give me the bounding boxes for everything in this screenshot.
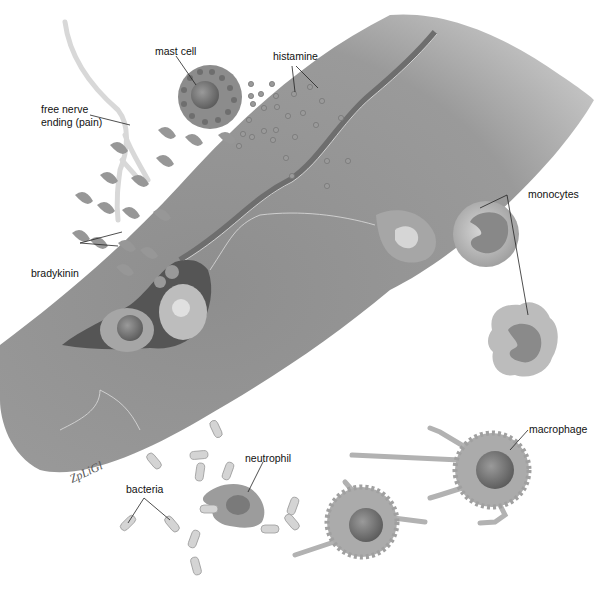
label-monocytes: monocytes — [528, 188, 579, 200]
label-bacteria: bacteria — [126, 483, 163, 495]
label-mast-cell: mast cell — [155, 45, 196, 57]
mast-cell — [178, 65, 242, 129]
label-histamine: histamine — [273, 50, 318, 62]
inflammation-diagram: ZpLiGl — [0, 0, 594, 590]
monocyte-amoeboid — [488, 302, 558, 376]
macrophage-lower — [295, 482, 425, 557]
label-free-nerve-ending-2: ending (pain) — [41, 116, 102, 128]
label-free-nerve-ending-1: free nerve — [41, 103, 88, 115]
label-macrophage: macrophage — [529, 423, 587, 435]
monocyte-round — [453, 201, 519, 267]
label-neutrophil: neutrophil — [245, 452, 291, 464]
label-bradykinin: bradykinin — [31, 267, 79, 279]
